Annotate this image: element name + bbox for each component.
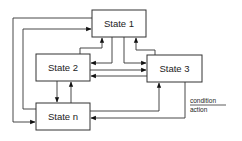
edge-s2-to-s1 — [80, 38, 102, 54]
legend-action: action — [190, 106, 208, 113]
state-1-label: State 1 — [104, 18, 134, 29]
edge-s3-to-sn — [91, 82, 185, 118]
state-2: State 2 — [36, 54, 90, 81]
state-3-label: State 3 — [159, 63, 189, 74]
state-1: State 1 — [92, 10, 146, 37]
legend: condition action — [190, 97, 226, 113]
legend-condition: condition — [190, 97, 216, 104]
state-transition-diagram: State 1 State 2 State 3 State n conditio… — [0, 0, 242, 141]
state-n: State n — [36, 103, 90, 130]
edge-s1-to-s2 — [91, 37, 112, 63]
state-2-label: State 2 — [48, 62, 78, 73]
state-3: State 3 — [147, 55, 202, 82]
edge-s3-to-s1 — [136, 38, 155, 55]
state-n-label: State n — [48, 111, 78, 122]
edge-sn-to-s3 — [90, 83, 159, 111]
